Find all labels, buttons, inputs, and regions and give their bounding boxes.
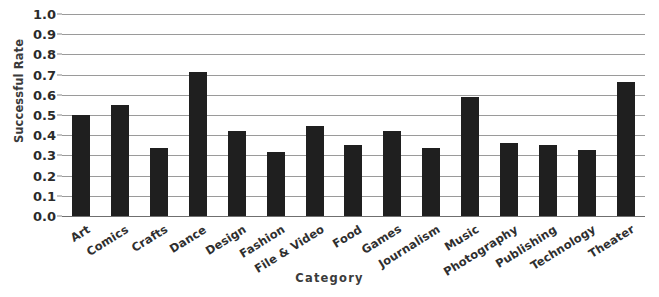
- bar: [578, 150, 596, 216]
- y-axis-tick-mark: [57, 94, 62, 95]
- bar: [72, 115, 90, 216]
- y-axis-tick-label: 0.7: [24, 67, 56, 82]
- bar: [189, 72, 207, 216]
- bar-slot: [528, 14, 567, 216]
- bar: [383, 131, 401, 216]
- y-axis-tick-label: 1.0: [24, 7, 56, 22]
- y-axis-tick-label: 0.2: [24, 168, 56, 183]
- y-axis-tick-mark: [57, 135, 62, 136]
- y-axis-tick-label: 0.9: [24, 27, 56, 42]
- bar-slot: [567, 14, 606, 216]
- y-axis-tick-mark: [57, 155, 62, 156]
- y-axis-tick-mark: [57, 14, 62, 15]
- y-axis-tick-mark: [57, 195, 62, 196]
- bar-slot: [490, 14, 529, 216]
- bar: [539, 145, 557, 216]
- y-axis-tick-labels: 1.00.90.80.70.60.50.40.30.20.10.0: [24, 0, 56, 216]
- bar-slot: [412, 14, 451, 216]
- x-axis-tick-label: Crafts: [129, 222, 170, 255]
- plot-area: [62, 14, 645, 216]
- y-axis-tick-mark: [57, 115, 62, 116]
- bars-layer: [62, 14, 645, 216]
- bar: [150, 148, 168, 216]
- bar: [461, 97, 479, 216]
- bar-slot: [451, 14, 490, 216]
- x-axis-tick-labels: ArtComicsCraftsDanceDesignFashionFile & …: [62, 216, 645, 276]
- y-axis-tick-label: 0.8: [24, 47, 56, 62]
- y-axis-tick-label: 0.1: [24, 188, 56, 203]
- bar-slot: [101, 14, 140, 216]
- bar-slot: [295, 14, 334, 216]
- y-axis-tick-label: 0.0: [24, 209, 56, 224]
- y-axis-tick-label: 0.4: [24, 128, 56, 143]
- x-axis-tick-label: Art: [68, 222, 93, 245]
- bar: [306, 126, 324, 216]
- bar: [267, 152, 285, 216]
- bar-slot: [62, 14, 101, 216]
- bar-slot: [606, 14, 645, 216]
- bar: [111, 105, 129, 216]
- bar-slot: [334, 14, 373, 216]
- x-axis-title: Category: [0, 271, 659, 285]
- bar: [500, 143, 518, 216]
- y-axis-tick-label: 0.6: [24, 87, 56, 102]
- bar-slot: [217, 14, 256, 216]
- y-axis-tick-label: 0.3: [24, 148, 56, 163]
- y-axis-tick-mark: [57, 54, 62, 55]
- bar: [344, 145, 362, 216]
- bar-slot: [256, 14, 295, 216]
- bar-slot: [179, 14, 218, 216]
- bar: [617, 82, 635, 216]
- bar-slot: [373, 14, 412, 216]
- bar-chart: Successful Rate 1.00.90.80.70.60.50.40.3…: [0, 0, 659, 297]
- y-axis-tick-label: 0.5: [24, 108, 56, 123]
- bar: [422, 148, 440, 216]
- bar: [228, 131, 246, 216]
- x-axis-tick-label: Comics: [84, 222, 131, 259]
- y-axis-tick-mark: [57, 74, 62, 75]
- y-axis-tick-mark: [57, 216, 62, 217]
- bar-slot: [140, 14, 179, 216]
- x-axis-tick-label: Dance: [167, 222, 209, 255]
- y-axis-tick-mark: [57, 175, 62, 176]
- y-axis-tick-mark: [57, 34, 62, 35]
